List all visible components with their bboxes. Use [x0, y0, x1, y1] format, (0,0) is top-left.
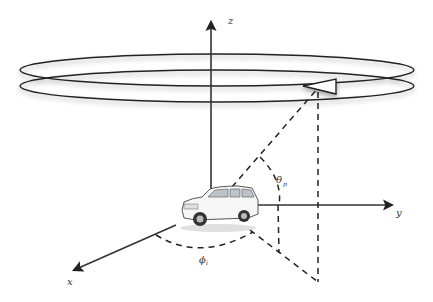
z-axis-label: z — [227, 15, 234, 26]
elevation-angle-label: θ — [276, 174, 282, 185]
vehicle-satellite-geometry-diagram: z y x θ p ϕ i — [0, 0, 433, 302]
elevation-angle-subscript: p — [283, 180, 287, 188]
orbit-rings — [20, 54, 414, 102]
azimuth-angle-label: ϕ — [199, 254, 206, 265]
y-axis-label: y — [395, 207, 402, 218]
x-axis — [74, 225, 176, 270]
ground-projection-line — [250, 230, 318, 282]
elevation-arc-drop — [278, 205, 279, 253]
line-of-sight — [232, 88, 318, 187]
azimuth-angle-arc — [156, 232, 253, 248]
azimuth-angle-subscript: i — [206, 259, 208, 266]
x-axis-label: x — [67, 276, 73, 287]
satellite-icon — [303, 79, 336, 94]
vehicle-icon — [180, 186, 258, 232]
